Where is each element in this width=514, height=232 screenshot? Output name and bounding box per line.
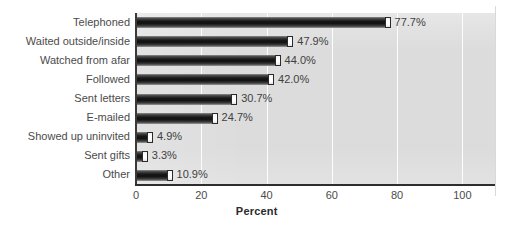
category-label: E-mailed bbox=[0, 111, 130, 123]
gridline-60 bbox=[332, 13, 333, 185]
bar bbox=[137, 132, 153, 143]
bar-value-label: 3.3% bbox=[152, 149, 177, 161]
category-label: Followed bbox=[0, 73, 130, 85]
x-tick-label: 100 bbox=[453, 189, 471, 201]
figure-right-rule bbox=[495, 6, 496, 196]
gridline-80 bbox=[397, 13, 398, 185]
bar bbox=[137, 36, 293, 47]
x-axis-title: Percent bbox=[236, 205, 278, 217]
x-tick-label: 80 bbox=[391, 189, 403, 201]
bar-value-label: 10.9% bbox=[177, 168, 208, 180]
bar-end-cap bbox=[287, 36, 293, 47]
bar-value-label: 77.7% bbox=[395, 16, 426, 28]
bar-end-cap bbox=[167, 170, 173, 181]
category-label: Watched from afar bbox=[0, 54, 130, 66]
category-label: Showed up uninvited bbox=[0, 130, 130, 142]
category-label: Sent letters bbox=[0, 92, 130, 104]
bar-end-cap bbox=[147, 132, 153, 143]
bar-end-cap bbox=[142, 151, 148, 162]
x-tick-label: 60 bbox=[326, 189, 338, 201]
bar-value-label: 24.7% bbox=[222, 111, 253, 123]
bar-end-cap bbox=[385, 17, 391, 28]
bar-end-cap bbox=[231, 94, 237, 105]
x-tick-label: 20 bbox=[195, 189, 207, 201]
bar bbox=[137, 17, 391, 28]
bar-value-label: 4.9% bbox=[157, 130, 182, 142]
bar bbox=[137, 151, 148, 162]
category-label: Telephoned bbox=[0, 16, 130, 28]
bar bbox=[137, 94, 237, 105]
bar bbox=[137, 74, 274, 85]
bar-end-cap bbox=[212, 113, 218, 124]
bar bbox=[137, 113, 218, 124]
x-tick-label: 0 bbox=[133, 189, 139, 201]
bar bbox=[137, 55, 281, 66]
category-label: Other bbox=[0, 168, 130, 180]
category-label: Waited outside/inside bbox=[0, 35, 130, 47]
bar bbox=[137, 170, 173, 181]
x-tick-label: 40 bbox=[260, 189, 272, 201]
bar-end-cap bbox=[275, 55, 281, 66]
bar-value-label: 44.0% bbox=[285, 54, 316, 66]
category-label: Sent gifts bbox=[0, 149, 130, 161]
bar-value-label: 30.7% bbox=[241, 92, 272, 104]
chart-screenshot: TelephonedWaited outside/insideWatched f… bbox=[0, 0, 514, 232]
bar-end-cap bbox=[268, 74, 274, 85]
gridline-100 bbox=[462, 13, 463, 185]
bar-value-label: 47.9% bbox=[297, 35, 328, 47]
bar-value-label: 42.0% bbox=[278, 73, 309, 85]
x-axis-line bbox=[135, 184, 495, 186]
